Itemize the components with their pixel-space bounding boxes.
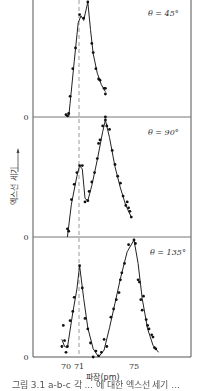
compton-scattering-figure: 0 0 0 θ = 45° θ = 90° θ = 135° 엑스선 세기 70…: [0, 0, 206, 391]
data-point: [133, 239, 136, 242]
data-point: [126, 201, 129, 204]
panel2-angle-label: θ = 90°: [148, 128, 179, 137]
fit-curve-panel-3: [62, 240, 159, 357]
data-point: [69, 95, 72, 98]
data-point: [65, 351, 68, 354]
fit-curves: [62, 2, 159, 357]
x-tick-75: 75: [129, 362, 139, 371]
data-point: [115, 298, 118, 301]
data-point: [118, 291, 121, 294]
data-point: [99, 79, 102, 82]
data-point: [139, 298, 142, 301]
data-point: [86, 199, 89, 202]
data-point: [97, 354, 100, 357]
data-point: [104, 93, 107, 96]
x-tick-71: 71: [74, 362, 84, 371]
data-point: [141, 309, 144, 312]
data-point: [104, 87, 107, 90]
data-point: [84, 201, 87, 204]
data-point: [78, 264, 81, 267]
data-point: [152, 336, 155, 339]
data-point: [108, 128, 111, 131]
data-point: [104, 116, 107, 119]
fit-curve-panel-2: [67, 120, 131, 237]
data-point: [88, 190, 91, 193]
data-point: [119, 182, 122, 185]
data-point: [103, 338, 106, 341]
data-point: [71, 310, 74, 313]
data-point: [81, 164, 84, 167]
data-point: [105, 125, 108, 128]
data-point: [95, 67, 98, 70]
data-point: [101, 125, 104, 128]
data-point: [119, 278, 122, 281]
panel3-angle-label: θ = 135°: [150, 248, 186, 257]
data-point: [146, 324, 149, 327]
data-point: [148, 328, 151, 331]
data-point: [63, 339, 66, 342]
data-point: [78, 164, 81, 167]
data-point: [70, 198, 73, 201]
data-point: [142, 295, 145, 298]
data-point: [62, 324, 65, 327]
panel2-zero-label: 0: [23, 233, 28, 242]
data-point: [86, 328, 89, 331]
data-point: [122, 195, 125, 198]
data-point: [90, 42, 93, 45]
data-point: [67, 230, 70, 233]
data-point: [138, 281, 141, 284]
panel1-zero-label: 0: [23, 113, 28, 122]
data-point: [105, 345, 108, 348]
data-point: [104, 119, 107, 122]
data-point: [97, 142, 100, 145]
figure-caption: 그림 3.1 a-b-c 각 ... 에 대한 엑스선 세기 ...: [12, 378, 202, 390]
data-point: [81, 287, 84, 290]
y-axis-label: 엑스선 세기: [9, 167, 19, 205]
panel3-zero-label: 0: [23, 353, 28, 362]
data-point: [84, 317, 87, 320]
panel1-angle-label: θ = 45°: [148, 9, 179, 18]
data-point: [120, 271, 123, 274]
fit-curve-panel-1: [69, 2, 106, 117]
data-point: [110, 316, 113, 319]
data-point: [130, 216, 133, 219]
data-point: [92, 356, 95, 359]
data-point: [127, 206, 130, 209]
data-point: [90, 181, 93, 184]
data-point: [96, 157, 99, 160]
chart-svg: 0 0 0 θ = 45° θ = 90° θ = 135° 엑스선 세기 70…: [0, 0, 206, 391]
y-axis-arrow-icon: [17, 148, 20, 153]
data-point: [89, 342, 92, 345]
x-tick-70: 70: [61, 362, 71, 371]
data-point: [86, 1, 89, 4]
data-point: [92, 51, 95, 54]
data-point: [123, 262, 126, 265]
data-point: [154, 347, 157, 350]
data-point: [69, 319, 72, 322]
data-point: [134, 242, 137, 245]
data-point: [93, 171, 96, 174]
data-point: [78, 13, 81, 16]
data-point: [82, 17, 85, 20]
data-point: [74, 47, 77, 50]
data-point: [73, 296, 76, 299]
data-point: [114, 163, 117, 166]
data-point: [67, 112, 70, 115]
data-point: [129, 210, 132, 213]
data-point: [71, 67, 74, 70]
data-point: [112, 308, 115, 311]
data-point: [111, 149, 114, 152]
data-point: [127, 243, 130, 246]
data-point: [66, 345, 69, 348]
data-point: [145, 318, 148, 321]
data-point: [116, 175, 119, 178]
data-point: [124, 204, 127, 207]
data-point: [61, 345, 64, 348]
data-point: [95, 350, 98, 353]
data-point: [100, 351, 103, 354]
data-point: [73, 183, 76, 186]
data-point: [76, 171, 79, 174]
data-point: [99, 139, 102, 142]
data-point: [66, 227, 69, 230]
